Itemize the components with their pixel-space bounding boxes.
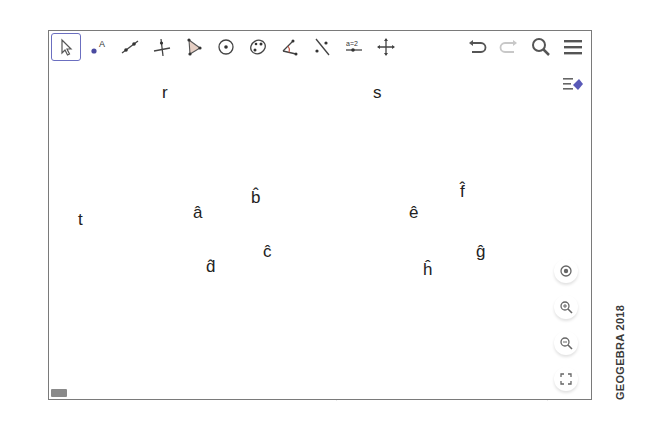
menu-button[interactable]: [561, 35, 585, 59]
search-button[interactable]: [529, 35, 553, 59]
keyboard-icon[interactable]: [51, 389, 67, 397]
toolbar-right: [465, 33, 585, 61]
zoom-out-icon: [559, 336, 573, 350]
angle-label-g: ĝ: [476, 243, 485, 260]
angle-label-c: ĉ: [263, 243, 272, 260]
undo-button[interactable]: [465, 35, 489, 59]
style-bar-toggle-button[interactable]: [559, 71, 587, 97]
move-graphics-tool-button[interactable]: [371, 33, 401, 61]
perpendicular-line-tool-button[interactable]: [147, 33, 177, 61]
polygon-tool-button[interactable]: [179, 33, 209, 61]
zoom-in-icon: [559, 300, 573, 314]
point-icon: A: [87, 36, 109, 58]
geogebra-app-window: A a=2: [48, 30, 592, 400]
slider-icon: a=2: [343, 36, 365, 58]
circle-with-center-icon: [215, 36, 237, 58]
conic-icon: [247, 36, 269, 58]
svg-text:A: A: [99, 39, 105, 49]
standard-view-button[interactable]: [554, 259, 578, 283]
search-icon: [530, 36, 552, 58]
svg-text:a=2: a=2: [346, 40, 358, 47]
zoom-out-button[interactable]: [554, 331, 578, 355]
line-label-s: s: [373, 84, 382, 101]
fullscreen-icon: [559, 372, 573, 386]
angle-label-f: f̂: [460, 183, 465, 200]
undo-icon: [466, 37, 488, 57]
slider-tool-button[interactable]: a=2: [339, 33, 369, 61]
reflect-tool-button[interactable]: [307, 33, 337, 61]
home-view-icon: [559, 264, 573, 278]
fullscreen-button[interactable]: [554, 367, 578, 391]
angle-label-d: d̂: [206, 258, 215, 275]
hamburger-menu-icon: [562, 37, 584, 57]
line-label-r: r: [162, 84, 168, 101]
angle-label-b: b̂: [251, 189, 260, 206]
arrow-cursor-icon: [55, 36, 77, 58]
point-tool-button[interactable]: A: [83, 33, 113, 61]
toolbar: A a=2: [49, 31, 591, 63]
move-arrows-icon: [375, 36, 397, 58]
angle-tool-button[interactable]: [275, 33, 305, 61]
circle-center-tool-button[interactable]: [211, 33, 241, 61]
zoom-in-button[interactable]: [554, 295, 578, 319]
line-label-t: t: [78, 211, 83, 228]
angle-label-h: ĥ: [423, 261, 432, 278]
zoom-controls: [553, 259, 579, 391]
reflect-about-line-icon: [311, 36, 333, 58]
angle-label-e: ê: [409, 204, 418, 221]
style-bar-icon: [561, 75, 585, 93]
redo-button[interactable]: [497, 35, 521, 59]
move-tool-button[interactable]: [51, 33, 81, 61]
conic-tool-button[interactable]: [243, 33, 273, 61]
redo-icon: [498, 37, 520, 57]
line-tool-button[interactable]: [115, 33, 145, 61]
angle-icon: [279, 36, 301, 58]
polygon-icon: [183, 36, 205, 58]
angle-label-a: â: [193, 204, 202, 221]
geogebra-watermark: GEOGEBRA 2018: [614, 305, 626, 400]
line-icon: [119, 36, 141, 58]
perpendicular-line-icon: [151, 36, 173, 58]
